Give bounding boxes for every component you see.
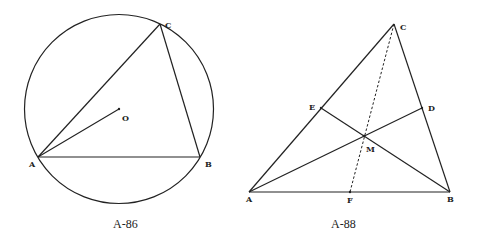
segment-ao — [38, 109, 119, 157]
figure-a88: A B C D E F M A-88 — [245, 22, 454, 231]
label-a: A — [245, 194, 253, 204]
side-bc — [160, 24, 200, 157]
label-c: C — [165, 20, 171, 30]
caption-a86: A-86 — [113, 217, 138, 231]
geometry-diagrams: A B C O A-86 A B C D E F M A-88 — [0, 0, 477, 236]
point-f — [349, 191, 351, 193]
label-a: A — [28, 159, 36, 169]
side-ac — [38, 24, 160, 157]
label-b: B — [447, 194, 454, 204]
point-e — [320, 107, 322, 109]
figure-a86: A B C O A-86 — [25, 15, 214, 232]
label-d: D — [428, 103, 435, 113]
caption-a88: A-88 — [331, 217, 356, 231]
label-e: E — [309, 102, 315, 112]
label-m: M — [366, 144, 375, 154]
label-o: O — [122, 113, 129, 123]
label-c: C — [400, 22, 406, 32]
label-f: F — [347, 195, 353, 205]
cevian-ad — [249, 108, 422, 192]
point-d — [421, 107, 423, 109]
cevian-be — [321, 108, 450, 192]
center-point-o — [118, 108, 120, 110]
label-b: B — [205, 159, 212, 169]
point-m — [363, 135, 366, 138]
